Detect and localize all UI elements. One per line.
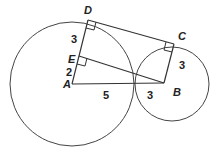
geometry-diagram: D C E A B 3 2 5 3 3 <box>0 0 216 156</box>
segment-ab <box>72 83 164 84</box>
segment-eb <box>79 56 164 83</box>
point-label-a: A <box>62 78 71 90</box>
point-label-e: E <box>68 53 76 65</box>
point-label-d: D <box>84 4 92 16</box>
length-label-tangent-b: 3 <box>147 89 153 101</box>
small-circle-center-b <box>135 47 209 121</box>
length-label-de: 3 <box>71 33 77 45</box>
length-label-cb: 3 <box>179 59 185 71</box>
length-label-a-tangent: 5 <box>103 89 109 101</box>
segment-cb <box>164 44 174 83</box>
length-label-ea: 2 <box>66 66 72 78</box>
point-label-b: B <box>173 86 181 98</box>
segment-ad <box>72 20 88 84</box>
segment-dc <box>88 20 174 44</box>
point-label-c: C <box>178 30 187 42</box>
